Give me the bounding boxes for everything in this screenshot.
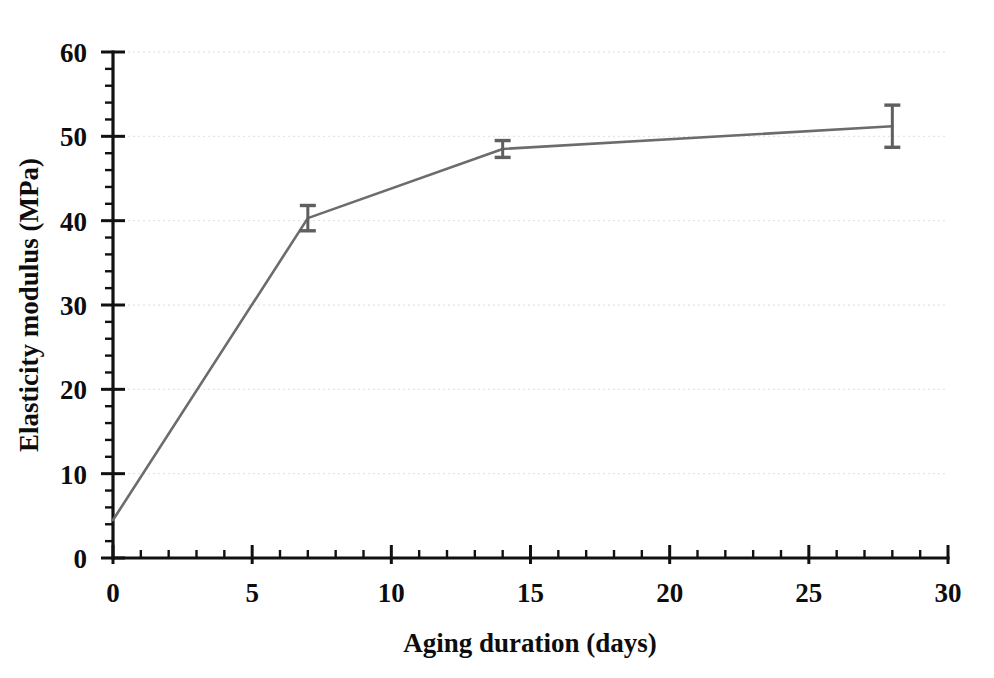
y-tick-label-50: 50 bbox=[60, 122, 87, 152]
x-tick-label-0: 0 bbox=[106, 578, 120, 608]
x-axis-title: Aging duration (days) bbox=[403, 628, 657, 658]
y-tick-label-30: 30 bbox=[60, 291, 87, 321]
x-tick-label-10: 10 bbox=[378, 578, 405, 608]
x-tick-label-5: 5 bbox=[245, 578, 259, 608]
y-tick-label-20: 20 bbox=[60, 375, 87, 405]
chart-figure: 0102030405060 051015202530 Aging duratio… bbox=[0, 0, 994, 678]
y-axis-title: Elasticity modulus (MPa) bbox=[14, 158, 44, 452]
x-tick-label-20: 20 bbox=[656, 578, 683, 608]
x-tick-label-15: 15 bbox=[517, 578, 544, 608]
x-tick-label-30: 30 bbox=[935, 578, 962, 608]
y-tick-label-0: 0 bbox=[74, 544, 88, 574]
y-tick-label-40: 40 bbox=[60, 207, 87, 237]
elasticity-modulus-line-chart: 0102030405060 051015202530 Aging duratio… bbox=[0, 0, 994, 678]
figure-background bbox=[0, 0, 994, 678]
y-tick-label-60: 60 bbox=[60, 38, 87, 68]
y-tick-label-10: 10 bbox=[60, 460, 87, 490]
x-tick-label-25: 25 bbox=[795, 578, 822, 608]
